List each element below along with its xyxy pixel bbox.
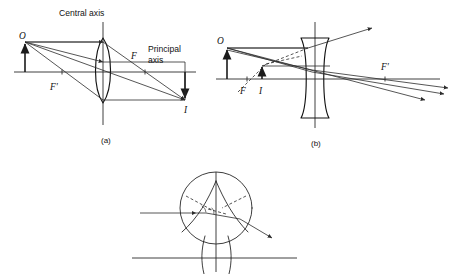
angle-arc-refracted-c [212, 208, 214, 214]
image-label-b: I [258, 86, 263, 96]
angle-marker-c [208, 209, 226, 214]
object-label-b: O [217, 36, 224, 46]
ray-lower-incident-a [25, 42, 103, 100]
panel-a: Central axis Principal axis O I F F' (a) [14, 8, 196, 145]
focus-left-label-a: F' [49, 82, 59, 92]
normal-right-c [222, 196, 246, 208]
focus-right-label-a: F [130, 51, 137, 61]
refracting-surface-right-c [216, 181, 248, 232]
ray-second-refracted-b [312, 72, 444, 94]
central-axis-label-a: Central axis [59, 8, 104, 18]
focus-right-label-b: F' [380, 62, 390, 72]
panel-b: O I F F' (b) [216, 22, 448, 148]
ray-through-front-focus-a [25, 42, 103, 62]
panel-caption-b: (b) [311, 139, 321, 148]
object-label-a: O [19, 31, 26, 41]
figure-canvas: Central axis Principal axis O I F F' (a) [0, 0, 457, 274]
principal-axis-label-line2-a: axis [148, 55, 163, 65]
refracting-surface-left-c [182, 181, 216, 232]
optics-figure: Central axis Principal axis O I F F' (a) [0, 0, 457, 274]
image-label-a: I [183, 105, 188, 115]
ray-third-incident-b [227, 50, 312, 70]
principal-axis-label-line1-a: Principal [148, 44, 181, 54]
panel-c [132, 172, 297, 274]
focus-left-label-b: F [239, 86, 246, 96]
panel-caption-a: (a) [101, 136, 111, 145]
